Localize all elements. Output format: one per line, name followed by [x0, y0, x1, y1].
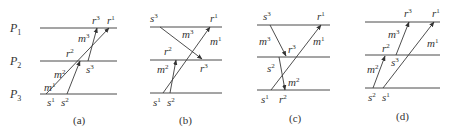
- label-r2: r2: [66, 47, 74, 59]
- label-m1: m1: [427, 37, 439, 49]
- label-r3: r3: [92, 14, 100, 26]
- caption-c: (c): [289, 112, 302, 125]
- label-m3: m3: [78, 32, 90, 44]
- process-label-p3: P3: [9, 87, 21, 103]
- diagram-a: r3 r1 m3 r2 s3 m2 m1 s1 s2 (a): [40, 14, 117, 127]
- label-m1: m1: [313, 35, 325, 47]
- message-diagrams: P1 P2 P3 r3 r1 m3 r2 s3 m2 m1 s1 s2 (a) …: [0, 0, 459, 132]
- caption-a: (a): [73, 114, 86, 127]
- label-r3: r3: [404, 7, 412, 19]
- label-s1: s1: [153, 96, 161, 108]
- label-r2: r2: [279, 93, 287, 105]
- label-m3: m3: [182, 28, 194, 40]
- label-r1: r1: [317, 10, 325, 22]
- label-m2: m2: [367, 63, 379, 75]
- label-s2: s2: [267, 62, 275, 74]
- label-m1: m1: [210, 35, 222, 47]
- diagram-b: s3 r1 m3 m1 r2 r3 m2 s1 s2 (b): [150, 12, 222, 127]
- label-r3: r3: [200, 62, 208, 74]
- label-m3: m3: [259, 35, 271, 47]
- message-m2-arrow: [67, 61, 80, 94]
- label-m3: m3: [388, 28, 400, 40]
- label-s3: s3: [150, 12, 158, 24]
- label-m1: m1: [44, 81, 56, 93]
- process-label-p2: P2: [9, 54, 21, 70]
- label-r2: r2: [382, 42, 390, 54]
- label-r1: r1: [107, 14, 115, 26]
- label-r1: r1: [432, 7, 440, 19]
- label-s1: s1: [47, 96, 55, 108]
- process-label-p1: P1: [9, 21, 21, 37]
- label-s1: s1: [261, 93, 269, 105]
- label-s3: s3: [391, 56, 399, 68]
- label-s3: s3: [86, 63, 94, 75]
- process-labels: P1 P2 P3: [9, 21, 21, 103]
- label-r3: r3: [288, 43, 296, 55]
- label-s2: s2: [167, 96, 175, 108]
- caption-b: (b): [179, 114, 192, 127]
- diagram-d: r3 r1 m3 m1 r2 s3 m2 s2 s1 (d): [365, 7, 440, 123]
- message-m3-arrow: [270, 25, 286, 56]
- label-s3: s3: [263, 10, 271, 22]
- label-m2: m2: [54, 68, 66, 80]
- message-m3-arrow: [396, 22, 409, 55]
- label-m2: m2: [288, 76, 300, 88]
- label-s2: s2: [368, 91, 376, 103]
- label-m2: m2: [157, 63, 169, 75]
- label-r2: r2: [164, 45, 172, 57]
- label-s2: s2: [61, 96, 69, 108]
- diagram-c: s3 r1 m3 r3 m1 s2 m2 s1 r2 (c): [257, 10, 330, 125]
- caption-d: (d): [396, 110, 409, 123]
- label-s1: s1: [382, 91, 390, 103]
- label-r1: r1: [210, 12, 218, 24]
